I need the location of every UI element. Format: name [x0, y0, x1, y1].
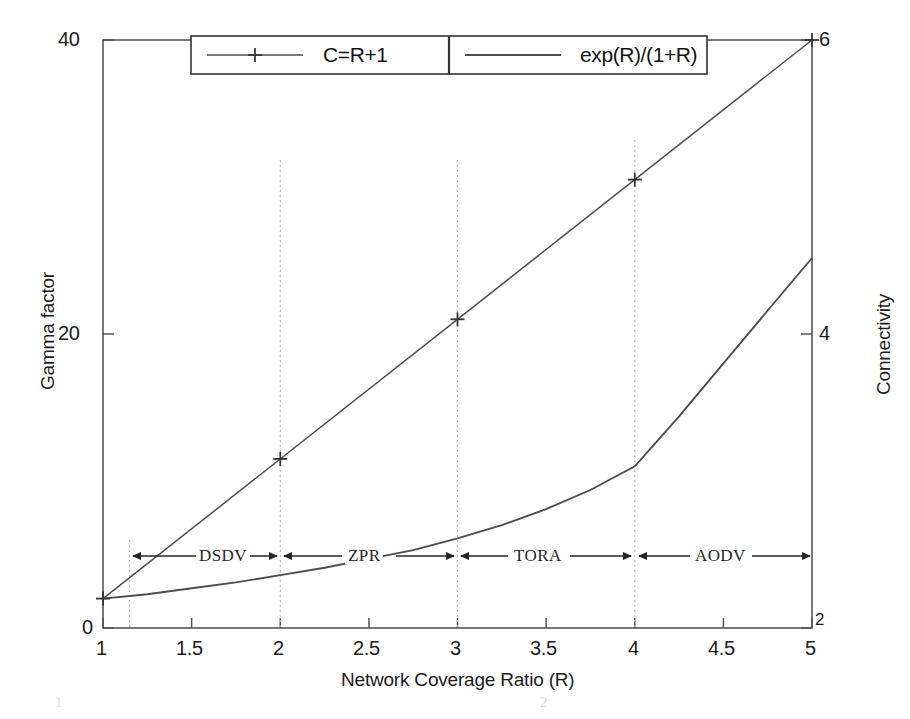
x-tick-label-5: 5 — [805, 638, 816, 658]
chart-canvas — [0, 0, 910, 719]
x-tick-label-2: 2 — [273, 638, 284, 658]
y-right-tick-label-2: 2 — [815, 611, 824, 628]
y-right-tick-label-4: 4 — [819, 323, 830, 343]
y-left-tick-label-40: 40 — [58, 29, 80, 49]
y-left-tick-label-0: 0 — [82, 617, 93, 637]
y-right-tick-label-6: 6 — [819, 29, 830, 49]
y-left-tick-label-20: 20 — [58, 323, 80, 343]
y-left-axis-title: Gamma factor — [38, 272, 57, 390]
region-label-tora: TORA — [511, 547, 565, 564]
x-tick-label-1: 1 — [96, 638, 107, 658]
series-c-equals-r-plus-1 — [96, 33, 819, 606]
y-right-axis-ticks — [801, 40, 812, 628]
region-label-zpr: ZPR — [345, 547, 383, 564]
x-tick-label-3-5: 3.5 — [530, 638, 557, 658]
x-tick-label-1-5: 1.5 — [176, 638, 203, 658]
marker-r2 — [273, 452, 287, 466]
scan-artifact-left: 1 — [55, 694, 63, 711]
plot-frame — [103, 40, 812, 628]
legend-label-exp-r: exp(R)/(1+R) — [580, 44, 697, 65]
x-axis-title: Network Coverage Ratio (R) — [341, 670, 574, 689]
x-tick-label-4-5: 4.5 — [708, 638, 735, 658]
figure-container: C=R+1 exp(R)/(1+R) 40 20 0 6 4 2 1 1.5 2… — [0, 0, 910, 719]
series-markers — [96, 33, 819, 606]
x-tick-label-3: 3 — [450, 638, 461, 658]
legend-label-c-equals-r-plus-1: C=R+1 — [323, 44, 388, 65]
marker-r4 — [628, 173, 642, 187]
region-label-aodv: AODV — [692, 547, 749, 564]
y-right-axis-title: Connectivity — [874, 294, 893, 395]
marker-r3 — [451, 312, 465, 326]
marker-r1 — [96, 592, 110, 606]
region-label-dsdv: DSDV — [196, 547, 250, 564]
x-tick-label-4: 4 — [628, 638, 639, 658]
marker-r5 — [805, 33, 819, 47]
x-tick-label-2-5: 2.5 — [353, 638, 380, 658]
scan-artifact-right: 2 — [540, 694, 548, 711]
y-left-axis-ticks — [103, 40, 114, 628]
